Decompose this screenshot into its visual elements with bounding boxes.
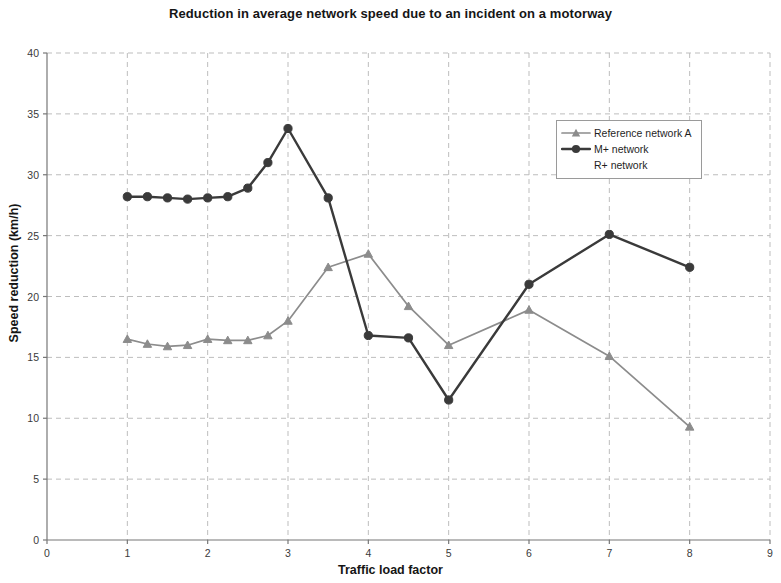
legend-item-label: M+ network [594,142,649,156]
x-axis-title: Traffic load factor [0,563,781,577]
x-tick-label: 3 [285,547,291,559]
data-point-marker [364,331,372,339]
x-tick-label: 0 [44,547,50,559]
chart-figure: Reduction in average network speed due t… [0,0,781,583]
legend-item-label: Reference network A [594,126,691,140]
y-tick-label: 15 [27,351,39,363]
x-tick-label: 1 [124,547,130,559]
legend-item: M+ network [561,141,696,157]
y-tick-label: 0 [33,534,39,546]
data-point-marker [204,194,212,202]
x-tick-label: 6 [526,547,532,559]
data-point-marker [244,184,252,192]
plot-area: 05101520253035400123456789 [0,0,781,583]
data-point-marker [123,193,131,201]
data-point-marker [163,194,171,202]
data-point-marker [224,193,232,201]
data-point-marker [324,194,332,202]
legend-triangle-marker-icon [561,126,591,140]
data-point-marker [525,280,533,288]
data-point-marker [445,396,453,404]
x-tick-label: 8 [687,547,693,559]
x-tick-label: 2 [205,547,211,559]
data-point-marker [605,230,613,238]
y-tick-label: 35 [27,108,39,120]
y-tick-label: 30 [27,169,39,181]
y-tick-label: 20 [27,291,39,303]
legend-circle-marker-icon [561,142,591,156]
data-point-marker [686,263,694,271]
legend: Reference network AM+ networkR+ network [556,120,702,179]
y-tick-label: 10 [27,412,39,424]
data-point-marker [143,193,151,201]
data-point-marker [123,335,131,343]
x-tick-label: 7 [606,547,612,559]
legend-empty-marker-icon [561,158,591,172]
x-tick-label: 4 [365,547,371,559]
x-tick-label: 5 [446,547,452,559]
data-point-marker [264,159,272,167]
data-point-marker [184,195,192,203]
data-point-marker [605,352,613,360]
y-tick-label: 25 [27,230,39,242]
legend-item-label: R+ network [594,158,647,172]
data-point-marker [364,250,372,258]
legend-item: R+ network [561,157,696,173]
legend-item: Reference network A [561,125,696,141]
y-tick-label: 40 [27,47,39,59]
x-tick-label: 9 [767,547,773,559]
data-point-marker [284,124,292,132]
y-tick-label: 5 [33,473,39,485]
data-point-marker [525,306,533,314]
y-axis-title-wrapper: Speed reduction (km/h) [2,0,24,583]
y-axis-title: Speed reduction (km/h) [7,143,21,403]
data-point-marker [404,334,412,342]
